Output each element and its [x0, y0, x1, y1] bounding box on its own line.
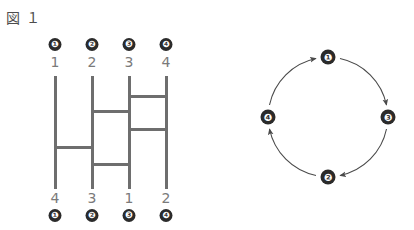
top-badge-2: ❷	[86, 38, 99, 51]
cycle-diagram: ❶ ❸ ❷ ❹	[210, 0, 414, 230]
ladder-rung-1-2	[54, 146, 94, 149]
bottom-number-3: 1	[119, 190, 139, 206]
ladder-rail-1	[54, 76, 57, 189]
figure-root: 図 １ ❶ ❷ ❸ ❹ 1 2 3 4 4 3 1	[0, 0, 414, 230]
top-number-3: 3	[119, 54, 139, 70]
cycle-arrow-1-to-3	[340, 59, 387, 106]
top-number-2: 2	[82, 54, 102, 70]
bottom-number-1: 4	[45, 190, 65, 206]
ladder-rung-3-4-upper	[128, 95, 168, 98]
figure-2-panel: 図 2 ❶ ❸ ❷ ❹	[210, 0, 414, 230]
bottom-badge-3: ❸	[123, 209, 136, 222]
ladder-rail-4	[165, 76, 168, 189]
cycle-node-left: ❹	[261, 110, 276, 125]
ladder-rail-3	[128, 76, 131, 189]
top-badge-1: ❶	[49, 38, 62, 51]
cycle-node-right: ❸	[381, 110, 396, 125]
figure-1-panel: 図 １ ❶ ❷ ❸ ❹ 1 2 3 4 4 3 1	[0, 0, 210, 230]
ladder-rung-2-3-lower	[91, 163, 131, 166]
bottom-badge-1: ❶	[49, 209, 62, 222]
ladder-diagram: ❶ ❷ ❸ ❹ 1 2 3 4 4 3 1 2 ❶	[0, 0, 210, 230]
ladder-rail-2	[91, 76, 94, 189]
top-badge-4: ❹	[160, 38, 173, 51]
cycle-node-top: ❶	[321, 50, 336, 65]
bottom-badge-4: ❹	[160, 209, 173, 222]
cycle-arrow-2-to-4	[270, 129, 317, 176]
top-number-1: 1	[45, 54, 65, 70]
cycle-node-bottom: ❷	[321, 170, 336, 185]
cycle-arrow-4-to-1	[270, 59, 317, 106]
ladder-rung-3-4-lower	[128, 128, 168, 131]
top-number-4: 4	[156, 54, 176, 70]
top-badge-3: ❸	[123, 38, 136, 51]
bottom-number-2: 3	[82, 190, 102, 206]
bottom-badge-2: ❷	[86, 209, 99, 222]
ladder-rung-2-3-upper	[91, 110, 131, 113]
cycle-arrow-3-to-2	[340, 129, 387, 176]
bottom-number-4: 2	[156, 190, 176, 206]
